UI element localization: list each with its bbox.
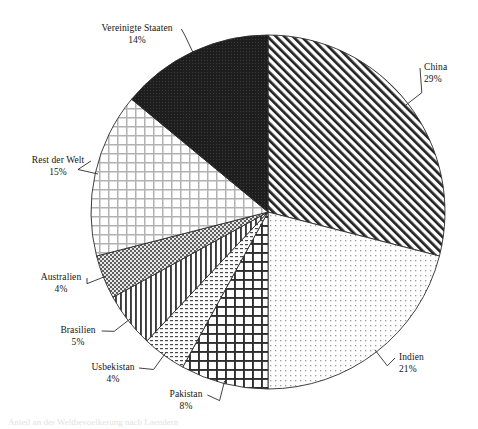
- pie-label-name: China: [424, 62, 447, 74]
- pie-label-percent: 5%: [60, 337, 95, 349]
- leader-line-indien: [375, 350, 395, 366]
- pie-label-name: Rest der Welt: [32, 155, 85, 167]
- pie-label-percent: 21%: [399, 364, 424, 376]
- pie-label-name: Vereinigte Staaten: [101, 23, 172, 35]
- pie-label-brasilien: Brasilien5%: [60, 325, 95, 348]
- pie-label-australien: Australien4%: [41, 272, 82, 295]
- pie-label-china: China29%: [424, 62, 447, 85]
- pie-slices: [91, 35, 445, 389]
- pie-label-name: Indien: [399, 352, 424, 364]
- pie-label-usbekistan: Usbekistan4%: [91, 362, 134, 385]
- pie-label-percent: 15%: [32, 167, 85, 179]
- pie-label-percent: 4%: [41, 284, 82, 296]
- leader-line-brasilien: [102, 319, 131, 331]
- pie-label-percent: 29%: [424, 74, 447, 86]
- pie-chart: China29%Indien21%Pakistan8%Usbekistan4%B…: [0, 0, 478, 429]
- pie-label-percent: 14%: [101, 35, 172, 47]
- pie-label-name: Usbekistan: [91, 362, 134, 374]
- pie-label-percent: 4%: [91, 374, 134, 386]
- pie-label-pakistan: Pakistan8%: [170, 389, 203, 412]
- pie-label-vereinigte-staaten: Vereinigte Staaten14%: [101, 23, 172, 46]
- leader-line-usbekistan: [139, 353, 166, 370]
- leader-line-china: [406, 68, 422, 105]
- leader-line-vereinigte-staaten: [181, 29, 193, 54]
- pie-label-name: Brasilien: [60, 325, 95, 337]
- pie-label-name: Pakistan: [170, 389, 203, 401]
- pie-label-name: Australien: [41, 272, 82, 284]
- pie-label-rest-der-welt: Rest der Welt15%: [32, 155, 85, 178]
- leader-line-pakistan: [207, 381, 224, 401]
- footer-partial-text: Anteil an der Weltbevoelkerung nach Laen…: [8, 417, 470, 429]
- pie-label-indien: Indien21%: [399, 352, 424, 375]
- leader-line-australien: [87, 276, 106, 284]
- pie-label-percent: 8%: [170, 401, 203, 413]
